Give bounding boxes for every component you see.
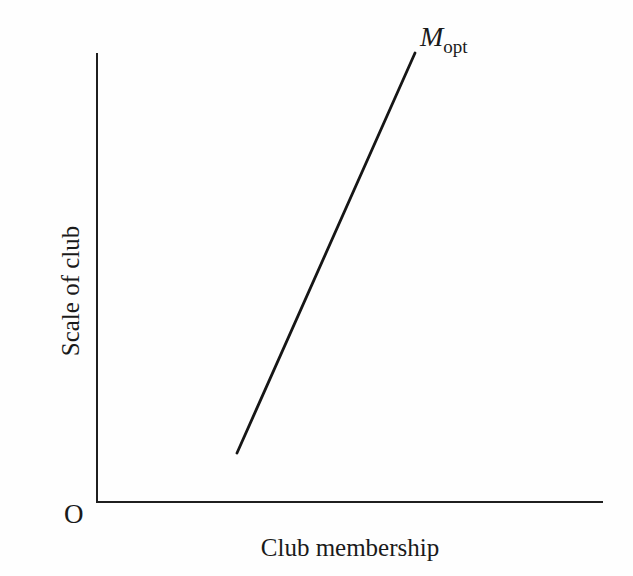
m-opt-line [237,53,415,453]
m-opt-label-base: M [420,21,443,52]
line-label-m-opt: Mopt [420,22,468,53]
club-theory-diagram: Mopt O Club membership Scale of club [0,0,633,576]
plot-canvas [0,0,633,576]
origin-label: O [64,501,84,528]
m-opt-label-subscript: opt [443,36,467,57]
y-axis-title: Scale of club [58,226,83,357]
x-axis-title: Club membership [97,534,603,563]
